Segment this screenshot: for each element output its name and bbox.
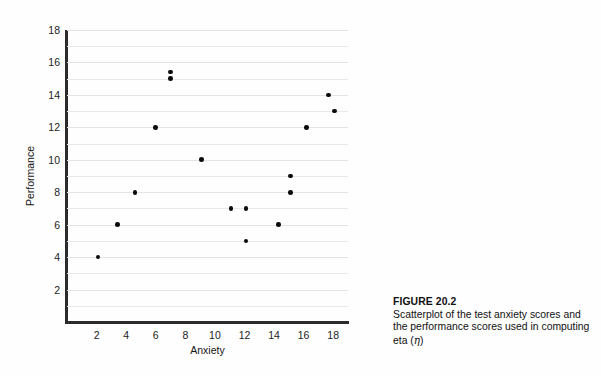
gridline <box>67 225 348 226</box>
figure-caption-label: FIGURE 20.2 <box>393 296 456 307</box>
data-point <box>288 174 293 179</box>
x-tick-label: 2 <box>94 329 100 341</box>
gridline <box>67 306 348 307</box>
gridline <box>67 208 348 209</box>
gridline <box>67 30 348 31</box>
gridline <box>67 62 348 63</box>
y-tick-label: 16 <box>48 56 60 68</box>
gridline <box>67 273 348 274</box>
data-point <box>244 239 249 244</box>
gridline <box>67 79 348 80</box>
x-tick-label: 16 <box>298 329 310 341</box>
gridline <box>67 111 348 112</box>
y-tick-label: 2 <box>54 284 60 296</box>
data-point <box>326 93 331 98</box>
y-tick-label: 4 <box>54 251 60 263</box>
x-tick-label: 12 <box>239 329 251 341</box>
data-point <box>168 70 173 75</box>
data-point <box>288 190 293 195</box>
x-tick-label: 4 <box>123 329 129 341</box>
x-tick-label: 10 <box>209 329 221 341</box>
y-tick-label: 14 <box>48 89 60 101</box>
data-point <box>332 109 337 114</box>
gridline <box>67 192 348 193</box>
x-tick-label: 18 <box>327 329 339 341</box>
gridline <box>67 160 348 161</box>
y-axis-title: Performance <box>24 146 36 206</box>
gridline <box>67 290 348 291</box>
gridline <box>67 95 348 96</box>
gridline <box>67 241 348 242</box>
x-tick-label: 14 <box>268 329 280 341</box>
y-tick-label: 18 <box>48 24 60 36</box>
data-point <box>276 222 281 227</box>
x-tick-label: 8 <box>182 329 188 341</box>
y-tick-label: 8 <box>54 186 60 198</box>
y-tick-label: 12 <box>48 121 60 133</box>
data-point <box>115 222 120 227</box>
data-point <box>153 125 158 130</box>
figure-caption-tail: ) <box>420 335 423 346</box>
gridline <box>67 176 348 177</box>
x-tick-label: 6 <box>153 329 159 341</box>
x-axis-title: Anxiety <box>67 344 348 356</box>
figure-caption: FIGURE 20.2 Scatterplot of the test anxi… <box>393 296 598 347</box>
scatterplot: 24681012141618 24681012141618 Anxiety Pe… <box>0 0 380 376</box>
gridline <box>67 257 348 258</box>
data-point <box>244 206 249 211</box>
figure-root: 24681012141618 24681012141618 Anxiety Pe… <box>0 0 601 376</box>
data-point <box>168 76 173 81</box>
y-tick-label: 6 <box>54 219 60 231</box>
gridline <box>67 46 348 47</box>
data-point <box>133 190 138 195</box>
data-point <box>229 206 234 211</box>
gridline <box>67 144 348 145</box>
plot-area: 24681012141618 24681012141618 <box>67 30 348 322</box>
data-point <box>199 157 204 162</box>
data-point <box>304 125 309 130</box>
y-tick-label: 10 <box>48 154 60 166</box>
data-point <box>96 255 101 260</box>
